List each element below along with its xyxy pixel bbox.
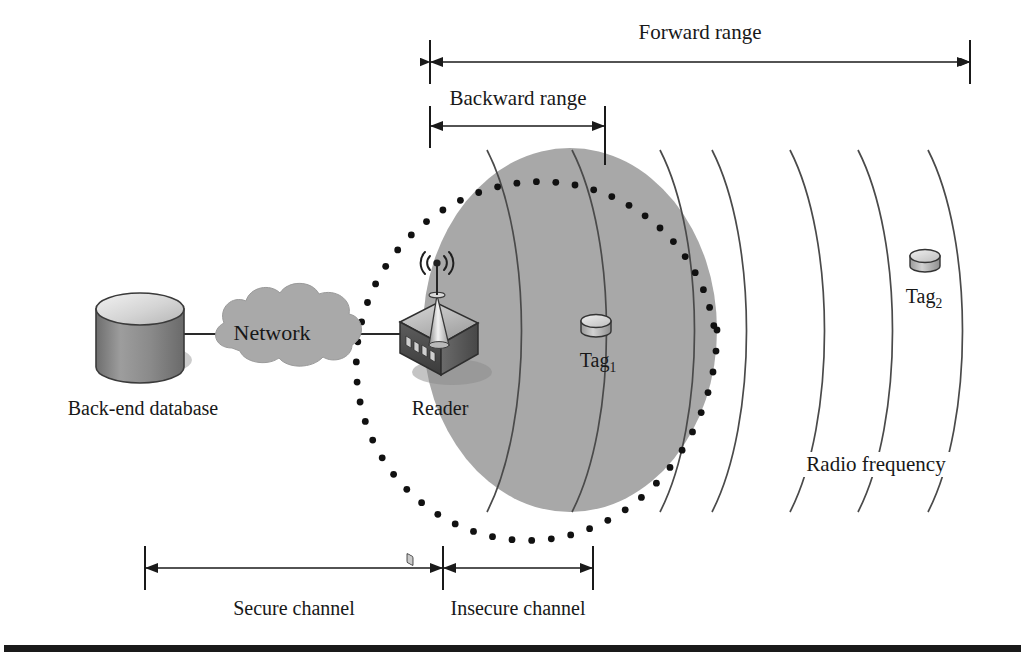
tag1-label: Tag1: [580, 350, 617, 375]
forward-range-measure: [430, 40, 970, 84]
secure-channel-label: Secure channel: [233, 598, 355, 618]
network-label: Network: [234, 322, 311, 344]
tag1-icon: [581, 315, 611, 338]
rfid-system-diagram: Forward range Backward range Network Bac…: [0, 0, 1025, 668]
back-end-database-label: Back-end database: [68, 398, 218, 418]
baseline-rule: [4, 645, 1021, 652]
reader-label: Reader: [412, 398, 469, 418]
tag1-label-text: Tag: [580, 349, 610, 371]
tag2-label: Tag2: [906, 286, 943, 311]
insecure-channel-label: Insecure channel: [451, 598, 586, 618]
forward-range-label: Forward range: [638, 22, 761, 43]
back-end-database-icon: [96, 293, 192, 383]
backward-range-label: Backward range: [449, 88, 586, 109]
tag2-label-subscript: 2: [935, 296, 942, 311]
tag2-label-text: Tag: [906, 285, 936, 307]
tag1-label-subscript: 1: [609, 360, 616, 375]
radio-frequency-label: Radio frequency: [801, 452, 950, 477]
tag2-icon: [910, 250, 940, 273]
channel-measures: [145, 546, 593, 590]
